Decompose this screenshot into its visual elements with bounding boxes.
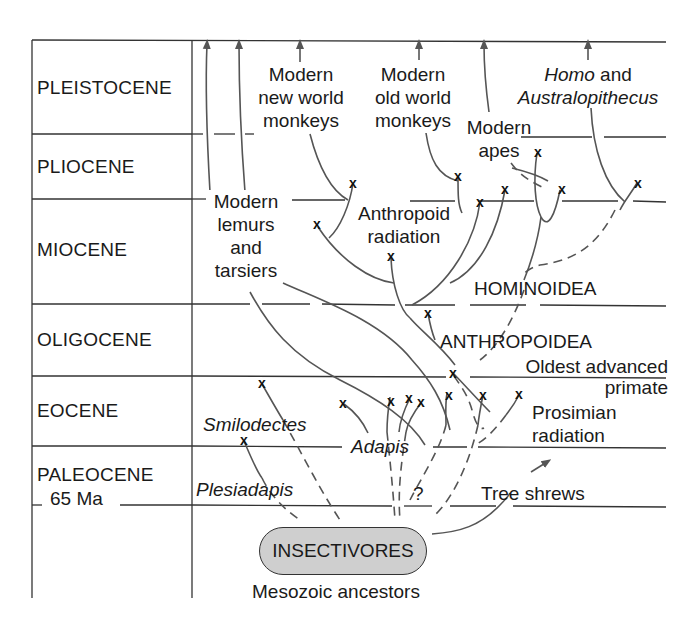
epoch-table-frame <box>32 40 666 598</box>
label-smilodectes: Smilodectes <box>203 413 307 436</box>
epoch-eocene: EOCENE <box>37 399 118 422</box>
label-question-mark: ? <box>413 482 424 505</box>
label-anthropoid-radiation: Anthropoid radiation <box>354 202 454 248</box>
extinction-mark: x <box>339 395 347 411</box>
extinction-mark: x <box>454 168 462 184</box>
epoch-oligocene: OLIGOCENE <box>37 328 152 351</box>
label-old-world-monkeys: Modern old world monkeys <box>370 63 456 132</box>
label-hominoidea: HOMINOIDEA <box>474 277 596 300</box>
label-oldest-advanced-primate: Oldest advanced primate <box>490 355 668 398</box>
extinction-mark: x <box>501 181 509 197</box>
extinction-mark: x <box>387 393 395 409</box>
extinction-mark: x <box>558 181 566 197</box>
extinction-mark: x <box>479 387 487 403</box>
extinction-mark: x <box>405 390 413 406</box>
extinction-mark: x <box>387 248 395 264</box>
extinction-mark: x <box>445 387 453 403</box>
label-plesiadapis: Plesiadapis <box>196 478 293 501</box>
label-lemurs-tarsiers: Modern lemurs and tarsiers <box>206 190 286 282</box>
boundary-65ma: 65 Ma <box>50 487 103 510</box>
root-caption: Mesozoic ancestors <box>252 580 420 603</box>
extinction-mark: x <box>424 305 432 321</box>
extinction-mark: x <box>476 194 484 210</box>
label-prosimian-radiation: Prosimian radiation <box>532 401 616 447</box>
extinction-mark: x <box>417 394 425 410</box>
epoch-pliocene: PLIOCENE <box>37 155 135 178</box>
label-anthropoidea: ANTHROPOIDEA <box>440 330 592 353</box>
epoch-miocene: MIOCENE <box>37 238 127 261</box>
root-insectivores-box: INSECTIVORES <box>259 527 427 575</box>
label-modern-apes: Modern apes <box>462 116 536 162</box>
root-label: INSECTIVORES <box>272 540 413 561</box>
label-adapis: Adapis <box>351 435 409 458</box>
extinction-mark: x <box>449 365 457 381</box>
label-homo-australopithecus: Homo and Australopithecus <box>508 63 668 109</box>
extinction-mark: x <box>349 175 357 191</box>
extinction-mark: x <box>258 375 266 391</box>
epoch-paleocene: PALEOCENE <box>37 463 154 486</box>
extinction-mark: x <box>634 175 642 191</box>
label-new-world-monkeys: Modern new world monkeys <box>258 63 344 132</box>
extinction-mark: x <box>313 216 321 232</box>
label-tree-shrews: Tree shrews <box>481 482 585 505</box>
epoch-pleistocene: PLEISTOCENE <box>37 76 172 99</box>
